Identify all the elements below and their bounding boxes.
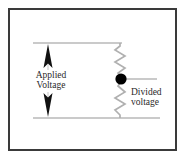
zigzag-resistor-icon-lower [115, 83, 125, 118]
figure-root: Applied Voltage Divided voltage [0, 0, 189, 168]
applied-voltage-label-line2: Voltage [29, 80, 73, 90]
divided-voltage-label-line1: Divided [131, 87, 183, 97]
divided-voltage-label: Divided voltage [131, 87, 183, 107]
filled-circle-node-icon [115, 73, 126, 84]
divided-voltage-label-line2: voltage [131, 97, 183, 107]
applied-voltage-label-line1: Applied [29, 70, 73, 80]
zigzag-resistor-icon-upper [115, 43, 125, 75]
applied-voltage-label: Applied Voltage [29, 70, 73, 90]
